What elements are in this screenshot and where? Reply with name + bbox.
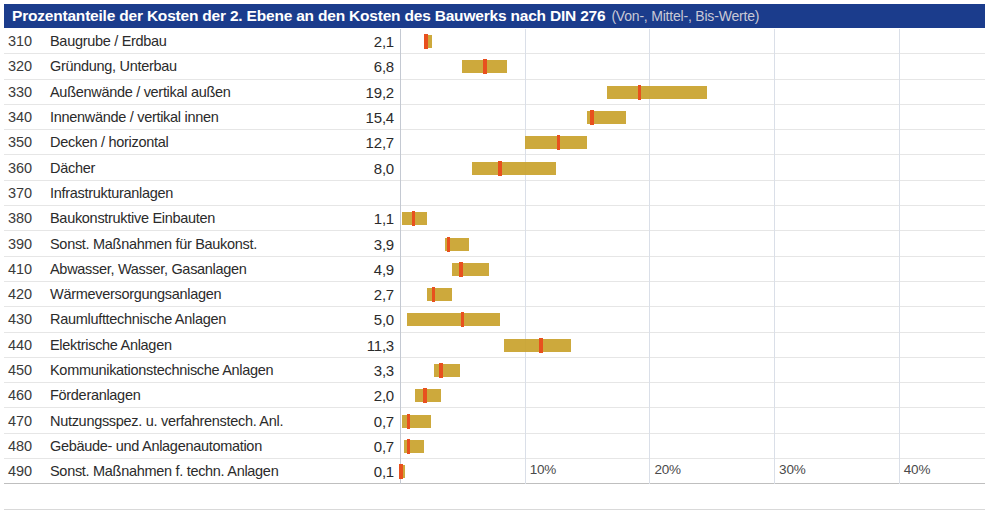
table-row[interactable]: 460Förderanlagen2,0 [4,383,985,408]
row-code: 440 [8,337,32,353]
row-value: 12,7 [366,134,394,151]
row-code: 410 [8,261,32,277]
x-tick-label-10: 10% [530,462,556,477]
page-subtitle: (Von-, Mittel-, Bis-Werte) [611,8,759,24]
row-label: Nutzungsspez. u. verfahrenstech. Anl. [50,413,283,429]
table-row[interactable]: 330Außenwände / vertikal außen19,2 [4,80,985,105]
row-label: Förderanlagen [50,387,140,403]
row-label: Innenwände / vertikal innen [50,109,218,125]
row-code: 460 [8,387,32,403]
table-row[interactable]: 320Gründung, Unterbau6,8 [4,54,985,79]
row-label: Infrastrukturanlagen [50,185,173,201]
row-code: 490 [8,463,32,479]
row-code: 330 [8,84,32,100]
row-value: 2,0 [374,387,394,404]
row-label: Baugrube / Erdbau [50,33,167,49]
row-value: 3,3 [374,362,394,379]
table-row[interactable]: 360Dächer8,0 [4,155,985,180]
table-row[interactable]: 490Sonst. Maßnahmen f. techn. Anlagen0,1 [4,459,985,484]
x-tick-label-30: 30% [779,462,805,477]
table-row[interactable]: 380Baukonstruktive Einbauten1,1 [4,206,985,231]
row-label: Außenwände / vertikal außen [50,84,231,100]
row-label: Dächer [50,160,95,176]
row-value: 8,0 [374,159,394,176]
row-label: Baukonstruktive Einbauten [50,210,215,226]
row-code: 390 [8,236,32,252]
table-row[interactable]: 390Sonst. Maßnahmen für Baukonst.3,9 [4,231,985,256]
row-value: 6,8 [374,58,394,75]
row-code: 380 [8,210,32,226]
table-row[interactable]: 470Nutzungsspez. u. verfahrenstech. Anl.… [4,408,985,433]
data-row-list: 310Baugrube / Erdbau2,1320Gründung, Unte… [4,29,985,484]
table-row[interactable]: 430Raumlufttechnische Anlagen5,0 [4,307,985,332]
row-value: 1,1 [374,210,394,227]
table-row[interactable]: 420Wärmeversorgungsanlagen2,7 [4,282,985,307]
row-code: 360 [8,160,32,176]
row-value: 11,3 [367,336,394,353]
table-row[interactable]: 480Gebäude- und Anlagenautomation0,7 [4,434,985,459]
table-row[interactable]: 440Elektrische Anlagen11,3 [4,333,985,358]
row-label: Wärmeversorgungsanlagen [50,286,221,302]
page-title: Prozentanteile der Kosten der 2. Ebene a… [12,7,605,25]
row-value: 0,7 [374,437,394,454]
row-code: 430 [8,311,32,327]
row-code: 320 [8,58,32,74]
row-value: 2,1 [374,33,394,50]
row-label: Elektrische Anlagen [50,337,172,353]
row-code: 310 [8,33,32,49]
row-code: 470 [8,413,32,429]
row-value: 0,1 [374,463,394,480]
table-row[interactable]: 340Innenwände / vertikal innen15,4 [4,105,985,130]
x-tick-label-40: 40% [904,462,930,477]
row-label: Gründung, Unterbau [50,58,177,74]
row-value: 2,7 [374,286,394,303]
table-row[interactable]: 370Infrastrukturanlagen [4,181,985,206]
row-label: Kommunikationstechnische Anlagen [50,362,273,378]
row-value: 0,7 [374,412,394,429]
x-tick-label-20: 20% [654,462,680,477]
row-label: Gebäude- und Anlagenautomation [50,438,262,454]
row-code: 340 [8,109,32,125]
table-row[interactable]: 450Kommunikationstechnische Anlagen3,3 [4,358,985,383]
row-code: 420 [8,286,32,302]
row-value: 3,9 [374,235,394,252]
table-row[interactable]: 350Decken / horizontal12,7 [4,130,985,155]
row-label: Raumlufttechnische Anlagen [50,311,226,327]
row-label: Sonst. Maßnahmen für Baukonst. [50,236,257,252]
row-label: Abwasser, Wasser, Gasanlagen [50,261,247,277]
row-value: 5,0 [374,311,394,328]
table-row[interactable]: 310Baugrube / Erdbau2,1 [4,29,985,54]
row-value: 4,9 [374,260,394,277]
chart-root: Prozentanteile der Kosten der 2. Ebene a… [0,0,989,510]
row-value: 15,4 [366,109,394,126]
row-label: Decken / horizontal [50,134,168,150]
row-code: 450 [8,362,32,378]
row-code: 370 [8,185,32,201]
chart-title-bar: Prozentanteile der Kosten der 2. Ebene a… [4,4,985,28]
row-value: 19,2 [366,83,394,100]
table-row[interactable]: 410Abwasser, Wasser, Gasanlagen4,9 [4,257,985,282]
row-code: 480 [8,438,32,454]
row-label: Sonst. Maßnahmen f. techn. Anlagen [50,463,278,479]
row-code: 350 [8,134,32,150]
x-axis-labels: 10%20%30%40% [396,484,985,508]
